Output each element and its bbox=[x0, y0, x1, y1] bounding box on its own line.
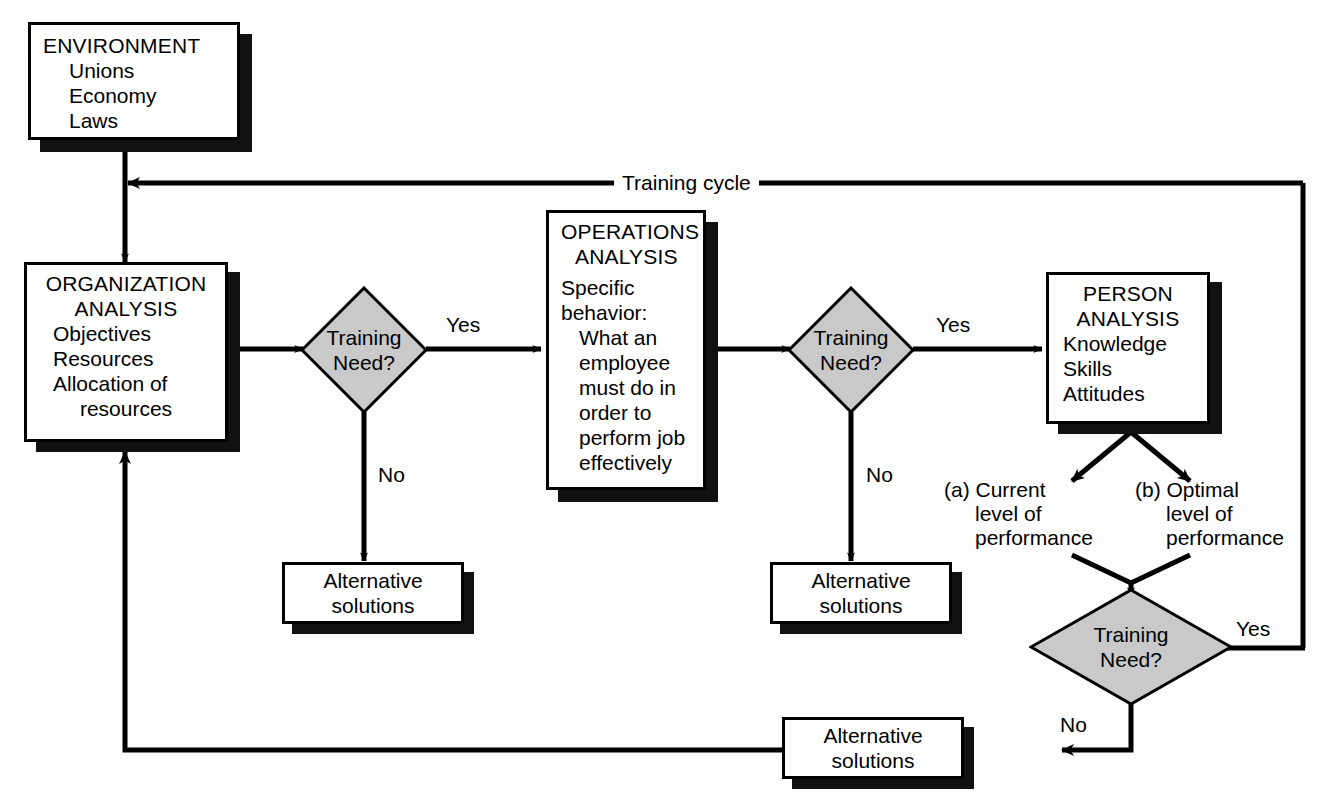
organization-title-line2: ANALYSIS bbox=[27, 296, 225, 321]
operations-line-4: employee bbox=[549, 350, 703, 375]
organization-item-3: resources bbox=[27, 396, 225, 421]
label-yes-1: Yes bbox=[446, 312, 480, 337]
organization-item-2: Allocation of bbox=[27, 371, 225, 396]
decision-training-need-3[interactable]: Training Need? bbox=[1029, 588, 1233, 706]
operations-line-1: Specific bbox=[549, 275, 703, 300]
alt1-line-2: solutions bbox=[332, 593, 415, 618]
decision2-line-2: Need? bbox=[820, 350, 882, 375]
alt2-line-2: solutions bbox=[820, 593, 903, 618]
environment-item-2: Laws bbox=[31, 108, 237, 133]
outcome-a-line-2: level of bbox=[944, 502, 1094, 526]
decision3-line-1: Training bbox=[1093, 622, 1168, 647]
alt3-line-2: solutions bbox=[832, 748, 915, 773]
outcome-b-line-1: Optimal bbox=[1167, 478, 1239, 501]
edge-person-to-outcome-a bbox=[1072, 432, 1131, 481]
node-alternative-solutions-3[interactable]: Alternative solutions bbox=[782, 717, 964, 779]
node-alternative-solutions-2[interactable]: Alternative solutions bbox=[770, 562, 952, 624]
label-no-2: No bbox=[866, 462, 893, 487]
person-title-line1: PERSON bbox=[1049, 281, 1207, 306]
edge-person-to-outcome-b bbox=[1131, 432, 1190, 481]
organization-item-0: Objectives bbox=[27, 321, 225, 346]
outcome-b-line-3: performance bbox=[1135, 526, 1295, 550]
node-organization-analysis[interactable]: ORGANIZATION ANALYSIS Objectives Resourc… bbox=[24, 262, 228, 442]
label-training-cycle: Training cycle bbox=[614, 170, 759, 195]
label-yes-3: Yes bbox=[1236, 616, 1270, 641]
outcome-a: (a) Current level of performance bbox=[944, 478, 1094, 550]
operations-line-5: must do in bbox=[549, 375, 703, 400]
operations-title-line1: OPERATIONS bbox=[549, 219, 703, 244]
outcome-a-line-3: performance bbox=[944, 526, 1094, 550]
person-item-0: Knowledge bbox=[1049, 331, 1207, 356]
alt2-line-1: Alternative bbox=[811, 568, 910, 593]
edge-outcomes-merge bbox=[1072, 555, 1190, 583]
operations-title-line2: ANALYSIS bbox=[549, 244, 703, 269]
operations-line-6: order to bbox=[549, 400, 703, 425]
environment-item-1: Economy bbox=[31, 83, 237, 108]
alt1-line-1: Alternative bbox=[323, 568, 422, 593]
node-alternative-solutions-1[interactable]: Alternative solutions bbox=[282, 562, 464, 624]
organization-item-1: Resources bbox=[27, 346, 225, 371]
operations-line-7: perform job bbox=[549, 425, 703, 450]
node-environment[interactable]: ENVIRONMENT Unions Economy Laws bbox=[28, 22, 240, 140]
label-yes-2: Yes bbox=[936, 312, 970, 337]
outcome-b-line-2: level of bbox=[1135, 502, 1295, 526]
environment-title: ENVIRONMENT bbox=[31, 33, 237, 58]
outcome-a-marker: (a) bbox=[944, 478, 970, 501]
decision2-line-1: Training bbox=[813, 325, 888, 350]
node-person-analysis[interactable]: PERSON ANALYSIS Knowledge Skills Attitud… bbox=[1046, 272, 1210, 424]
person-item-1: Skills bbox=[1049, 356, 1207, 381]
outcome-a-line-1: Current bbox=[976, 478, 1046, 501]
decision3-line-2: Need? bbox=[1100, 647, 1162, 672]
node-operations-analysis[interactable]: OPERATIONS ANALYSIS Specific behavior: W… bbox=[546, 210, 706, 490]
outcome-b: (b) Optimal level of performance bbox=[1135, 478, 1295, 550]
outcome-b-marker: (b) bbox=[1135, 478, 1161, 501]
flowchart-canvas: ENVIRONMENT Unions Economy Laws ORGANIZA… bbox=[0, 0, 1325, 809]
decision-training-need-1[interactable]: Training Need? bbox=[300, 286, 428, 414]
label-no-1: No bbox=[378, 462, 405, 487]
person-title-line2: ANALYSIS bbox=[1049, 306, 1207, 331]
environment-item-0: Unions bbox=[31, 58, 237, 83]
organization-title-line1: ORGANIZATION bbox=[27, 271, 225, 296]
decision1-line-1: Training bbox=[326, 325, 401, 350]
person-item-2: Attitudes bbox=[1049, 381, 1207, 406]
operations-line-3: What an bbox=[549, 325, 703, 350]
operations-line-8: effectively bbox=[549, 450, 703, 475]
decision1-line-2: Need? bbox=[333, 350, 395, 375]
operations-line-2: behavior: bbox=[549, 300, 703, 325]
label-no-3: No bbox=[1060, 712, 1087, 737]
decision-training-need-2[interactable]: Training Need? bbox=[787, 286, 915, 414]
alt3-line-1: Alternative bbox=[823, 723, 922, 748]
